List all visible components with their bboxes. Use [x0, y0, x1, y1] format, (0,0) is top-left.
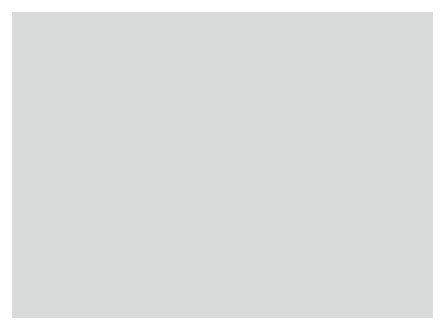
- figure-panel: [12, 12, 433, 318]
- forest-plot-figure: 6080100120140 0.20.51251020 Estimated me…: [0, 0, 445, 330]
